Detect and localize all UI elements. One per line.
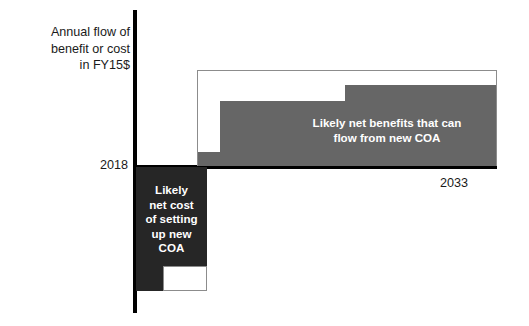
benefit-envelope-outline <box>197 70 497 166</box>
cost-cutout-notch <box>163 266 207 291</box>
y-axis-caption: Annual flow of benefit or cost in FY15$ <box>8 24 130 74</box>
benefit-cost-flow-chart: Annual flow of benefit or cost in FY15$ … <box>0 0 529 326</box>
cost-region: Likely net cost of setting up new COA <box>136 167 207 291</box>
x-axis-tick-end: 2033 <box>440 176 500 190</box>
benefits-region: Likely net benefits that can flow from n… <box>197 70 497 166</box>
x-axis-tick-start: 2018 <box>56 158 128 172</box>
